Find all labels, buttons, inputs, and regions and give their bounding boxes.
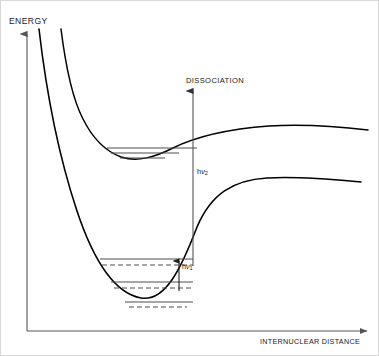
excited-state-curve: [61, 29, 368, 159]
hv1-subscript: 1: [190, 265, 193, 271]
diagram-canvas: [1, 1, 379, 356]
y-axis-label: ENERGY: [9, 17, 48, 26]
ground-state-curve: [39, 29, 361, 298]
dissociation-label: DISSOCIATION: [186, 77, 244, 85]
hv2-subscript: 2: [205, 170, 208, 176]
photon-energy-label-hv2: hν2: [197, 168, 208, 177]
potential-energy-diagram: ENERGY INTERNUCLEAR DISTANCE DISSOCIATIO…: [0, 0, 379, 356]
x-axis-label: INTERNUCLEAR DISTANCE: [260, 338, 360, 345]
photon-energy-label-hv1: hν1: [182, 263, 193, 272]
